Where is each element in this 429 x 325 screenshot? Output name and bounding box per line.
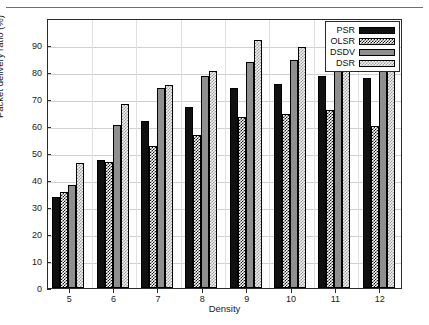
y-axis-tick-mark bbox=[47, 127, 51, 128]
x-axis-tick-mark bbox=[69, 289, 70, 293]
x-axis-tick-mark bbox=[291, 289, 292, 293]
y-axis-tick-label: 70 bbox=[20, 96, 42, 105]
bar-dsdv-density-11 bbox=[334, 54, 342, 288]
bar-olsr-density-10 bbox=[282, 114, 290, 288]
bar-psr-density-12 bbox=[363, 78, 371, 288]
bar-olsr-density-11 bbox=[326, 110, 334, 288]
gridline-vertical bbox=[92, 20, 93, 288]
x-axis-tick-mark bbox=[157, 289, 158, 293]
bar-dsdv-density-10 bbox=[290, 60, 298, 288]
legend[interactable]: PSROLSRDSDVDSR bbox=[325, 21, 400, 72]
legend-label: DSR bbox=[336, 59, 355, 68]
bar-olsr-density-12 bbox=[371, 126, 379, 288]
legend-item-psr[interactable]: PSR bbox=[330, 25, 395, 35]
y-axis-tick-label: 0 bbox=[20, 285, 42, 294]
x-axis-tick-label: 12 bbox=[365, 295, 395, 304]
figure-canvas: Packet delivery ratio (%) Density 010203… bbox=[0, 0, 429, 325]
plot-area: PSROLSRDSDVDSR bbox=[47, 19, 402, 289]
y-axis-tick-mark bbox=[47, 154, 51, 155]
x-axis-tick-label: 5 bbox=[54, 295, 84, 304]
legend-item-dsdv[interactable]: DSDV bbox=[330, 47, 395, 57]
legend-label: PSR bbox=[336, 26, 355, 35]
legend-item-dsr[interactable]: DSR bbox=[330, 58, 395, 68]
x-axis-tick-label: 8 bbox=[187, 295, 217, 304]
bar-dsr-density-9 bbox=[254, 40, 262, 288]
legend-label: DSDV bbox=[330, 48, 355, 57]
gridline-vertical bbox=[136, 20, 137, 288]
gridline-vertical bbox=[181, 20, 182, 288]
header-divider bbox=[6, 7, 423, 8]
bar-psr-density-10 bbox=[274, 84, 282, 288]
x-axis-tick-mark bbox=[113, 289, 114, 293]
y-axis-tick-label: 20 bbox=[20, 231, 42, 240]
y-axis-tick-label: 50 bbox=[20, 150, 42, 159]
bar-dsr-density-10 bbox=[298, 47, 306, 288]
x-axis-tick-mark bbox=[202, 289, 203, 293]
gridline-vertical bbox=[269, 20, 270, 288]
bar-psr-density-5 bbox=[52, 197, 60, 288]
y-axis-tick-mark bbox=[47, 208, 51, 209]
legend-item-olsr[interactable]: OLSR bbox=[330, 36, 395, 46]
bar-dsr-density-8 bbox=[209, 71, 217, 288]
bar-dsr-density-12 bbox=[387, 71, 395, 288]
bar-olsr-density-9 bbox=[238, 117, 246, 288]
bar-dsr-density-7 bbox=[165, 85, 173, 288]
y-axis-tick-mark bbox=[47, 262, 51, 263]
bar-psr-density-7 bbox=[141, 121, 149, 288]
legend-swatch-dsdv bbox=[359, 49, 395, 56]
y-axis-tick-mark bbox=[47, 100, 51, 101]
x-axis-tick-mark bbox=[335, 289, 336, 293]
y-axis-tick-mark bbox=[47, 181, 51, 182]
bar-dsdv-density-7 bbox=[157, 88, 165, 288]
bar-dsr-density-11 bbox=[342, 63, 350, 288]
y-axis-tick-label: 80 bbox=[20, 69, 42, 78]
bar-psr-density-9 bbox=[230, 88, 238, 288]
bar-psr-density-11 bbox=[318, 76, 326, 288]
gridline-vertical bbox=[314, 20, 315, 288]
y-axis-tick-mark bbox=[47, 46, 51, 47]
x-axis-tick-mark bbox=[379, 289, 380, 293]
bar-dsdv-density-12 bbox=[379, 56, 387, 288]
y-axis-tick-label: 60 bbox=[20, 123, 42, 132]
bar-olsr-density-5 bbox=[60, 192, 68, 288]
bar-dsdv-density-9 bbox=[246, 62, 254, 288]
x-axis-tick-label: 10 bbox=[276, 295, 306, 304]
bar-olsr-density-8 bbox=[193, 135, 201, 288]
bar-dsdv-density-6 bbox=[113, 125, 121, 288]
legend-swatch-psr bbox=[359, 27, 395, 34]
y-axis-tick-label: 30 bbox=[20, 204, 42, 213]
y-axis-tick-label: 10 bbox=[20, 258, 42, 267]
bar-psr-density-6 bbox=[97, 160, 105, 288]
gridline-vertical bbox=[225, 20, 226, 288]
bar-olsr-density-6 bbox=[105, 162, 113, 288]
y-axis-tick-mark bbox=[47, 235, 51, 236]
x-axis-tick-label: 7 bbox=[143, 295, 173, 304]
y-axis-tick-label: 40 bbox=[20, 177, 42, 186]
x-axis-tick-mark bbox=[246, 289, 247, 293]
bar-dsdv-density-5 bbox=[68, 185, 76, 288]
legend-swatch-dsr bbox=[359, 60, 395, 67]
y-axis-tick-label: 90 bbox=[20, 42, 42, 51]
legend-swatch-olsr bbox=[359, 38, 395, 45]
x-axis-tick-label: 6 bbox=[99, 295, 129, 304]
legend-rows: PSROLSRDSDVDSR bbox=[330, 25, 395, 68]
bar-dsr-density-5 bbox=[76, 163, 84, 288]
x-axis-label: Density bbox=[47, 303, 402, 314]
x-axis-tick-label: 9 bbox=[232, 295, 262, 304]
y-axis-tick-mark bbox=[47, 289, 51, 290]
bar-dsdv-density-8 bbox=[201, 76, 209, 288]
bar-dsr-density-6 bbox=[121, 104, 129, 288]
bar-olsr-density-7 bbox=[149, 146, 157, 288]
x-axis-tick-label: 11 bbox=[320, 295, 350, 304]
y-axis-label: Packet delivery ratio (%) bbox=[0, 15, 5, 118]
y-axis-tick-mark bbox=[47, 73, 51, 74]
bar-psr-density-8 bbox=[185, 107, 193, 288]
legend-label: OLSR bbox=[330, 37, 355, 46]
